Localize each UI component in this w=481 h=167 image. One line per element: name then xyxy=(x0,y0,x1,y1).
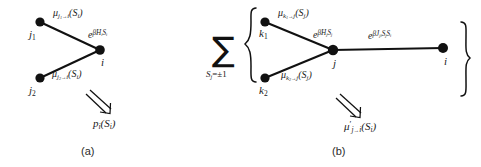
caption-panel-b: (b) xyxy=(332,146,345,157)
implies-arrow-a xyxy=(86,90,111,114)
node-dot-i-b xyxy=(438,43,448,53)
node-label-j1: j1 xyxy=(29,29,36,42)
edge-label-mu-k2-to-j: μk2→j(Sj) xyxy=(281,70,312,82)
result-label-p-i: pi(Si) xyxy=(93,118,116,131)
edge-label-mu-j1-to-i: μj1→i(Si) xyxy=(53,8,83,20)
node-dot-j1 xyxy=(35,17,44,26)
figure-vector-layer xyxy=(0,0,481,167)
node-factor-label-b: eβHjSj xyxy=(313,30,332,40)
node-label-i-b: i xyxy=(444,56,447,67)
summation-symbol: ∑ xyxy=(212,32,235,66)
node-label-j2: j2 xyxy=(29,85,36,98)
node-label-i-a: i xyxy=(101,57,104,68)
caption-panel-a: (a) xyxy=(81,146,94,157)
node-label-k2: k2 xyxy=(259,85,268,98)
edge-label-mu-k1-to-j: μk1→j(Sj) xyxy=(278,8,309,20)
summation-subscript: Sj=±1 xyxy=(206,69,227,80)
brace-right xyxy=(461,22,470,96)
node-dot-k1 xyxy=(260,17,269,26)
edge-label-mu-j2-to-i: μj2→i(Si) xyxy=(52,69,82,81)
bond-factor-label: eβJjiSjSi xyxy=(368,31,391,41)
edge-j-to-i xyxy=(333,48,443,50)
result-label-mu-prime: μ′j→i(Si) xyxy=(344,120,376,134)
node-label-j: j xyxy=(333,58,336,69)
node-dot-j2 xyxy=(35,73,44,82)
node-dot-k2 xyxy=(260,73,269,82)
node-dot-j xyxy=(328,45,338,55)
figure-canvas: μj1→i(Si) eβHiSi μj2→i(Si) j1 j2 i pi(Si… xyxy=(0,0,481,167)
panel-b-graph xyxy=(245,8,470,118)
node-label-k1: k1 xyxy=(259,28,268,41)
brace-left xyxy=(245,8,256,82)
node-factor-label-a: eβHiSi xyxy=(88,30,107,40)
node-dot-i-a xyxy=(95,45,105,55)
implies-arrow-b xyxy=(336,94,361,118)
